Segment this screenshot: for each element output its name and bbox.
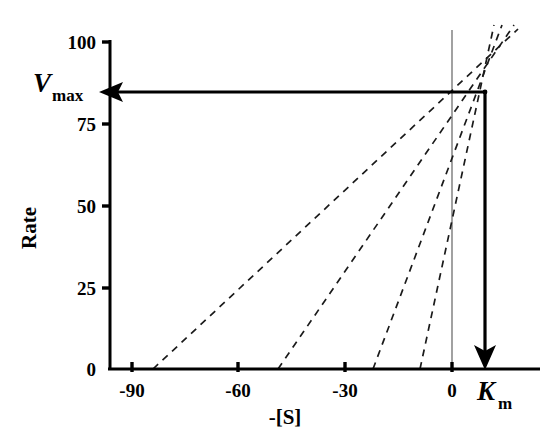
km-label-subscript: m	[498, 394, 512, 413]
lineweaver-burk-style-plot: 100 75 50 25 0 -90 -60 -30 0 Rate -[S] V…	[0, 0, 560, 435]
chart-canvas: 100 75 50 25 0 -90 -60 -30 0 Rate -[S] V…	[0, 0, 560, 435]
y-tick-label-50: 50	[77, 196, 96, 217]
x-tick-label-neg90: -90	[119, 380, 144, 401]
x-axis-title: -[S]	[269, 405, 302, 429]
y-tick-label-75: 75	[77, 114, 96, 135]
km-label-main: K	[476, 376, 497, 406]
x-tick-label-neg30: -30	[332, 380, 357, 401]
vmax-label-subscript: max	[52, 86, 84, 105]
convergence-point	[483, 90, 488, 95]
vmax-label-main: V	[33, 68, 53, 98]
y-tick-label-100: 100	[68, 32, 97, 53]
y-axis-title: Rate	[17, 207, 41, 249]
y-tick-label-0: 0	[87, 359, 97, 380]
x-tick-label-zero: 0	[447, 380, 457, 401]
x-tick-label-neg60: -60	[225, 380, 250, 401]
y-tick-label-25: 25	[77, 278, 96, 299]
